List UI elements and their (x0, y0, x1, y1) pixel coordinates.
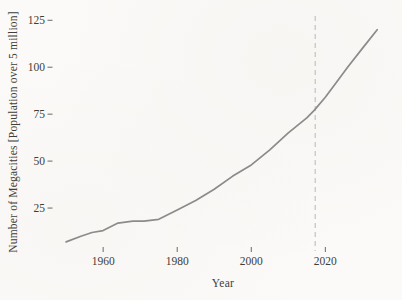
y-tick-label: 100 (28, 61, 46, 73)
megacities-data-line (66, 30, 377, 242)
x-tick-label: 1960 (92, 255, 115, 267)
x-tick-label: 2000 (240, 255, 263, 267)
x-tick-label: 1980 (166, 255, 189, 267)
y-tick-label: 25 (34, 202, 46, 214)
plot-area: 2550751001251960198020002020 (0, 0, 402, 300)
y-tick-label: 50 (34, 155, 46, 167)
y-tick-label: 125 (28, 14, 46, 26)
y-tick-label: 75 (34, 108, 46, 120)
x-axis-label: Year (212, 277, 234, 289)
x-tick-label: 2020 (314, 255, 337, 267)
megacities-line-chart: Number of Megacities [Population over 5 … (0, 0, 402, 300)
